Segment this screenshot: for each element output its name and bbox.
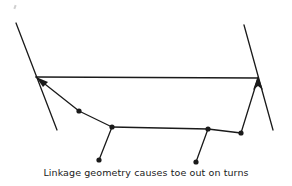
left-pitman-arm (99, 127, 112, 160)
linkage-drawing (0, 0, 292, 186)
pivot-dot (96, 157, 101, 162)
steering-linkage-diagram: Linkage geometry causes toe out on turns (0, 0, 292, 186)
linkage-path (36, 77, 258, 133)
pivot-dot (205, 126, 210, 131)
pivot-dot (76, 108, 81, 113)
pivot-dot (109, 124, 114, 129)
figure-caption: Linkage geometry causes toe out on turns (0, 167, 292, 178)
pivot-dot (193, 159, 198, 164)
right-pitman-arm (196, 129, 208, 162)
tie-rod-line (36, 77, 258, 78)
pivot-dot (238, 130, 243, 135)
